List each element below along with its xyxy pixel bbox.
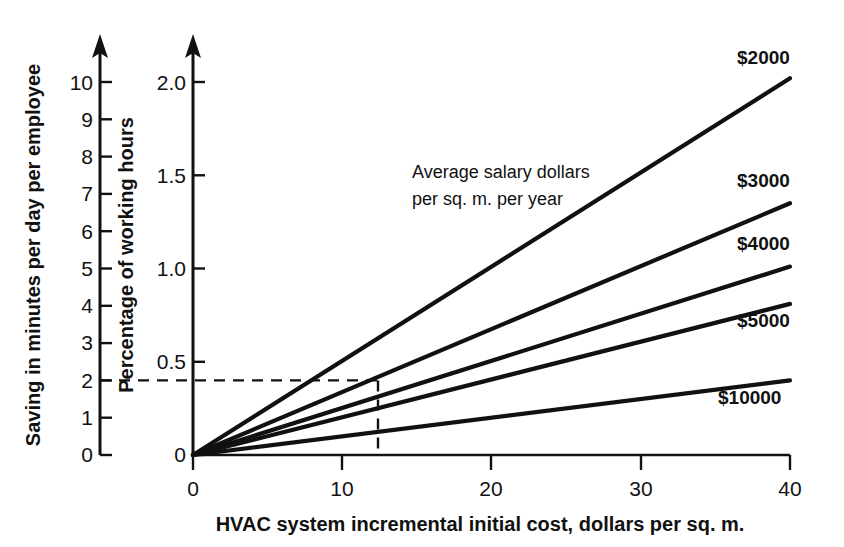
- annotation-line-2: per sq. m. per year: [412, 189, 563, 209]
- primary-y-tick-label-1.5: 1.5: [157, 164, 186, 187]
- x-tick-label-0: 0: [187, 477, 199, 500]
- secondary-y-tick-label-1: 1: [81, 406, 93, 429]
- primary-y-tick-label-0: 0: [174, 443, 186, 466]
- primary-y-tick-label-1.0: 1.0: [157, 257, 186, 280]
- chart-svg: 0 1 2 3 4 5 6 7 8 9 10 Saving in minutes…: [0, 0, 844, 547]
- secondary-y-tick-label-9: 9: [81, 108, 93, 131]
- series-label-2000: $2000: [737, 47, 790, 68]
- annotation-line-1: Average salary dollars: [412, 162, 590, 182]
- secondary-y-tick-label-2: 2: [81, 369, 93, 392]
- secondary-y-tick-label-6: 6: [81, 220, 93, 243]
- secondary-y-tick-label-0: 0: [81, 443, 93, 466]
- secondary-y-tick-label-8: 8: [81, 145, 93, 168]
- x-tick-label-20: 20: [479, 477, 502, 500]
- secondary-y-axis-title: Saving in minutes per day per employee: [22, 64, 44, 446]
- secondary-y-tick-label-4: 4: [81, 294, 93, 317]
- secondary-y-tick-label-3: 3: [81, 331, 93, 354]
- x-tick-label-40: 40: [778, 477, 801, 500]
- x-tick-label-10: 10: [330, 477, 353, 500]
- x-axis-title: HVAC system incremental initial cost, do…: [216, 513, 745, 535]
- chart-figure: 0 1 2 3 4 5 6 7 8 9 10 Saving in minutes…: [0, 0, 844, 547]
- x-tick-label-30: 30: [629, 477, 652, 500]
- primary-y-tick-label-2.0: 2.0: [157, 71, 186, 94]
- primary-y-axis-title: Percentage of working hours: [115, 117, 137, 393]
- series-label-4000: $4000: [737, 233, 790, 254]
- secondary-y-tick-label-5: 5: [81, 257, 93, 280]
- series-label-3000: $3000: [737, 170, 790, 191]
- secondary-y-tick-label-10: 10: [70, 71, 93, 94]
- primary-y-tick-label-0.5: 0.5: [157, 350, 186, 373]
- series-label-10000: $10000: [718, 387, 781, 408]
- secondary-y-tick-label-7: 7: [81, 182, 93, 205]
- series-label-5000: $5000: [737, 310, 790, 331]
